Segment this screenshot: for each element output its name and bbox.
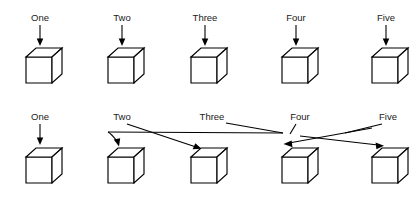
arrow-four [293, 25, 300, 46]
arrow-three-to-cube-four [108, 123, 283, 141]
bottom-row-arrows [37, 123, 384, 149]
top-label-three: Three [193, 12, 218, 23]
cube-top-4 [282, 48, 318, 83]
top-label-four: Four [286, 12, 306, 23]
arrow-two [119, 25, 126, 46]
bottom-label-four: Four [290, 111, 310, 122]
arrow-two-to-cube-three [127, 124, 202, 149]
arrow-four-to-cube-two [284, 124, 373, 147]
top-label-two: Two [113, 12, 130, 23]
arrow-three [202, 25, 209, 46]
bottom-label-two: Two [113, 111, 130, 122]
cube-top-1 [26, 48, 62, 83]
bottom-row-labels: One Two Three Four Five [31, 111, 397, 122]
cube-top-5 [372, 48, 408, 83]
bottom-label-one: One [31, 111, 49, 122]
bottom-label-five: Five [379, 111, 397, 122]
cube-bottom-4 [282, 148, 318, 183]
cube-mapping-diagram: One Two Three Four Five [0, 0, 412, 198]
top-label-one: One [31, 12, 49, 23]
bottom-label-three: Three [200, 111, 225, 122]
arrow-one [37, 25, 44, 46]
top-row-labels: One Two Three Four Five [31, 12, 395, 23]
top-row-arrows [37, 25, 390, 46]
cube-top-3 [191, 48, 227, 83]
top-row: One Two Three Four Five [26, 12, 408, 83]
top-row-cubes [26, 48, 408, 83]
arrow-five [383, 25, 390, 46]
cube-bottom-2 [108, 148, 144, 183]
arrow-curve-hook-to-cube-two [114, 138, 121, 146]
cube-bottom-1 [26, 148, 62, 183]
cube-bottom-3 [191, 148, 227, 183]
top-label-five: Five [377, 12, 395, 23]
arrow-one-to-cube-one [37, 124, 44, 145]
cube-top-2 [108, 48, 144, 83]
cube-bottom-5 [372, 148, 408, 183]
bottom-row-cubes [26, 148, 408, 183]
bottom-row: One Two Three Four Five [26, 111, 408, 183]
